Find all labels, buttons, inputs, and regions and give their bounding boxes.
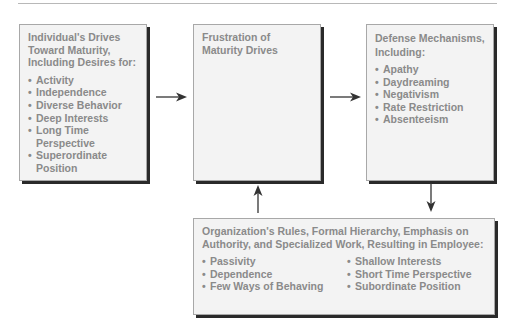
arrow-down-icon — [425, 183, 437, 213]
organization-box: Organization's Rules, Formal Hierarchy, … — [193, 218, 495, 315]
list-item: Deep Interests — [28, 112, 138, 125]
list-item: Dependence — [202, 268, 341, 281]
list-item: Apathy — [375, 63, 485, 76]
defense-list: Apathy Daydreaming Negativism Rate Restr… — [375, 63, 485, 126]
list-item: Activity — [28, 74, 138, 87]
list-item: Short Time Perspective — [347, 268, 486, 281]
list-item: Independence — [28, 86, 138, 99]
top-rule — [18, 3, 497, 4]
arrow-right-icon — [156, 91, 188, 103]
defense-box: Defense Mechanisms, Including: Apathy Da… — [366, 24, 494, 181]
defense-title: Defense Mechanisms, Including: — [375, 31, 485, 59]
list-item: Daydreaming — [375, 76, 485, 89]
drives-box: Individual's Drives Toward Maturity, Inc… — [19, 24, 147, 181]
arrow-right-icon — [330, 91, 362, 103]
drives-title: Individual's Drives Toward Maturity, Inc… — [28, 31, 138, 69]
arrow-up-icon — [252, 184, 264, 214]
list-item: Absenteeism — [375, 113, 485, 126]
list-item: Passivity — [202, 255, 341, 268]
frustration-box: Frustration of Maturity Drives — [193, 24, 321, 181]
organization-list-right: Shallow Interests Short Time Perspective… — [347, 255, 486, 293]
list-item: Negativism — [375, 88, 485, 101]
frustration-title: Frustration of Maturity Drives — [202, 31, 312, 56]
list-item: Long Time Perspective — [28, 124, 138, 149]
drives-list: Activity Independence Diverse Behavior D… — [28, 74, 138, 175]
organization-title: Organization's Rules, Formal Hierarchy, … — [202, 225, 486, 250]
list-item: Few Ways of Behaving — [202, 280, 341, 293]
list-item: Diverse Behavior — [28, 99, 138, 112]
organization-columns: Passivity Dependence Few Ways of Behavin… — [202, 255, 486, 293]
list-item: Subordinate Position — [347, 280, 486, 293]
organization-list-left: Passivity Dependence Few Ways of Behavin… — [202, 255, 341, 293]
list-item: Superordinate Position — [28, 149, 138, 174]
list-item: Rate Restriction — [375, 101, 485, 114]
list-item: Shallow Interests — [347, 255, 486, 268]
